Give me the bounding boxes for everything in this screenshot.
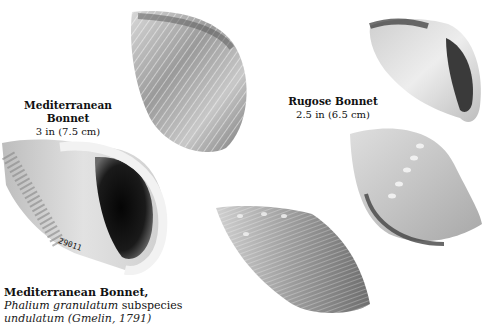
caption-mediterranean-bonnet-subspecies: Mediterranean Bonnet, Phalium granulatum…	[4, 286, 244, 325]
caption-size: 3 in (7.5 cm)	[3, 125, 133, 138]
caption-title: Mediterranean Bonnet,	[4, 286, 244, 299]
scientific-suffix: subspecies	[118, 299, 182, 312]
caption-title: Mediterranean Bonnet	[3, 99, 133, 125]
caption-rugose-bonnet: Rugose Bonnet 2.5 in (6.5 cm)	[283, 95, 383, 121]
caption-title: Rugose Bonnet	[283, 95, 383, 108]
rugose-bonnet-aperture-photo	[368, 16, 484, 126]
caption-author-line: undulatum (Gmelin, 1791)	[4, 312, 244, 325]
scientific-name-italic: Phalium granulatum	[4, 299, 118, 312]
caption-mediterranean-bonnet: Mediterranean Bonnet 3 in (7.5 cm)	[3, 99, 133, 138]
caption-size: 2.5 in (6.5 cm)	[283, 108, 383, 121]
mediterranean-bonnet-aperture-photo	[0, 135, 175, 275]
caption-scientific-name: Phalium granulatum subspecies	[4, 299, 244, 312]
